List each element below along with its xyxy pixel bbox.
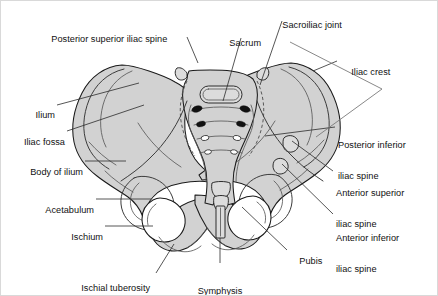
label-line: Ischial tuberosity <box>81 283 150 293</box>
sacral-promontory <box>200 86 242 103</box>
label-line: Posterior inferior <box>338 140 406 150</box>
label-line: Symphysis <box>179 286 261 296</box>
label-line: Ilium <box>36 110 56 120</box>
label-pubis: Pubis <box>289 246 322 277</box>
label-line: Ischium <box>71 232 103 242</box>
label-iliac-fossa: Iliac fossa <box>1 127 65 158</box>
label-line: iliac spine <box>336 264 399 274</box>
anterior-inferior-iliac-spine-bump <box>273 158 288 174</box>
sacral-ala-left-bump <box>175 68 187 80</box>
label-line: Body of ilium <box>30 167 83 177</box>
label-iliac-crest: Iliac crest <box>341 57 390 88</box>
label-line: Pubis <box>299 256 322 266</box>
label-symphysis-pubis: Symphysis pubis <box>179 265 261 296</box>
label-sacroiliac-joint: Sacroiliac joint <box>272 10 342 41</box>
left-obturator-foramen <box>142 198 185 242</box>
label-body-of-ilium: Body of ilium <box>1 157 83 188</box>
label-line: Iliac crest <box>351 67 390 77</box>
label-line: Anterior inferior <box>336 233 399 243</box>
label-sacrum: Sacrum <box>219 28 261 59</box>
leader-posterior-superior-iliac-spine <box>187 37 198 63</box>
symphysis-pubis-joint <box>216 206 225 238</box>
label-line: Posterior superior iliac spine <box>51 34 167 44</box>
label-line: Anterior superior <box>336 188 404 198</box>
sacral-ala-right-bump <box>257 68 269 80</box>
leader-iliac-crest <box>313 61 337 71</box>
label-line: Iliac fossa <box>24 137 65 147</box>
label-ischial-tuberosity: Ischial tuberosity <box>71 273 150 296</box>
label-anterior-inferior-iliac-spine: Anterior inferior iliac spine <box>336 212 399 295</box>
figure-container: .bone { fill:#d2d2d2; stroke:#1a1a1a; st… <box>0 0 438 296</box>
label-line: Sacroiliac joint <box>282 20 342 30</box>
label-line: Acetabulum <box>45 205 94 215</box>
label-ischium: Ischium <box>1 222 103 253</box>
label-posterior-superior-iliac-spine: Posterior superior iliac spine <box>41 24 167 55</box>
label-line: Sacrum <box>229 38 261 48</box>
